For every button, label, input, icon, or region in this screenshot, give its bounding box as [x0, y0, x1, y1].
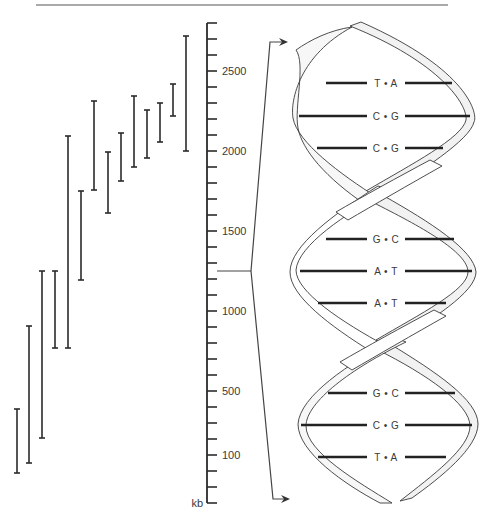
base-pair-rung: T • A	[318, 452, 446, 463]
base-pairs-group: T • AC • GC • GG • CA • TA • TG • CC • G…	[299, 78, 472, 463]
fragment-bar	[170, 84, 176, 116]
fragment-bar	[91, 101, 97, 190]
base-pair-rung: C • G	[301, 420, 472, 431]
base-pair-label: T • A	[374, 78, 398, 89]
kb-scale-axis: 2500200015001000500100kb	[191, 23, 246, 509]
base-pair-label: C • G	[373, 111, 400, 122]
base-pair-label: C • G	[373, 420, 400, 431]
base-pair-label: A • T	[374, 298, 398, 309]
base-pair-label: A • T	[374, 266, 398, 277]
base-pair-rung: A • T	[318, 298, 446, 309]
fragment-bar	[26, 326, 32, 463]
dna-scale-diagram: 2500200015001000500100kb T • AC • GC • G…	[0, 0, 495, 527]
fragment-bar	[144, 110, 150, 158]
axis-tick-label: 1500	[222, 225, 246, 237]
fragment-bar	[39, 271, 45, 438]
zoom-bracket	[217, 38, 290, 503]
fragment-bar	[78, 191, 84, 280]
base-pair-rung: G • C	[328, 388, 455, 399]
base-pair-label: C • G	[373, 143, 400, 154]
fragment-bar	[52, 271, 58, 348]
fragment-bar	[131, 96, 137, 167]
axis-tick-label: 100	[222, 449, 240, 461]
bracket-line-bottom	[251, 271, 284, 499]
base-pair-rung: C • G	[317, 143, 443, 154]
fragment-bar	[118, 133, 124, 181]
dna-double-helix: T • AC • GC • GG • CA • TA • TG • CC • G…	[290, 22, 478, 503]
base-pair-label: G • C	[373, 234, 400, 245]
fragment-bars-group	[14, 36, 189, 473]
base-pair-label: G • C	[373, 388, 400, 399]
axis-tick-label: 500	[222, 385, 240, 397]
fragment-bar	[65, 136, 71, 348]
base-pair-label: T • A	[374, 452, 398, 463]
bracket-line-top	[251, 42, 282, 271]
fragment-bar	[14, 409, 20, 473]
axis-unit-label: kb	[191, 497, 203, 509]
fragment-bar	[157, 103, 163, 142]
axis-tick-label: 2500	[222, 65, 246, 77]
base-pair-rung: C • G	[299, 111, 470, 122]
base-pair-rung: A • T	[300, 266, 472, 277]
fragment-bar	[105, 152, 111, 213]
base-pair-rung: T • A	[326, 78, 452, 89]
fragment-bar	[183, 36, 189, 151]
axis-tick-label: 1000	[222, 305, 246, 317]
axis-tick-label: 2000	[222, 145, 246, 157]
